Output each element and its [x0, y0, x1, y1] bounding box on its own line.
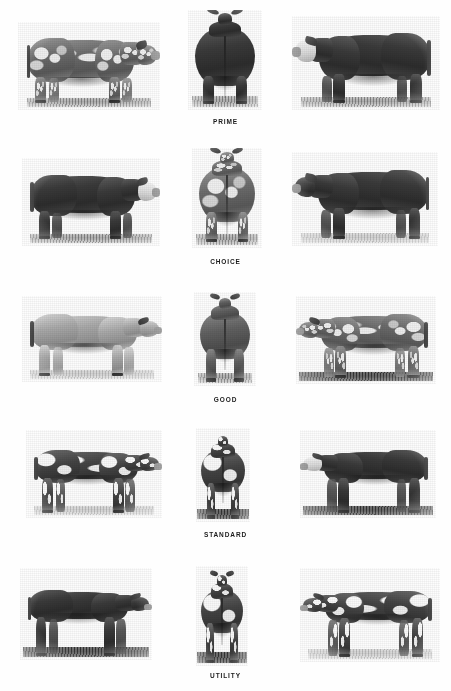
cattle-tail — [28, 597, 31, 620]
cattle-twist-shadow — [213, 212, 241, 226]
cattle-side-view — [22, 158, 160, 246]
cattle-side-view — [300, 568, 440, 662]
cattle-tail — [34, 457, 37, 480]
cattle-belly-shadow — [336, 74, 410, 85]
cattle-muzzle — [151, 51, 160, 60]
cattle-belly-shadow — [50, 210, 119, 221]
cattle-muzzle — [292, 184, 301, 193]
cattle-horn-left — [207, 10, 220, 16]
cattle-photo — [22, 158, 160, 246]
photo-frame — [20, 568, 152, 660]
cattle-front-leg — [322, 76, 332, 101]
grade-label: STANDARD — [0, 531, 451, 538]
cattle-horns — [210, 293, 240, 301]
cattle-hoof — [408, 375, 419, 378]
cattle-hoof — [203, 101, 214, 104]
cattle-side-view — [300, 430, 436, 518]
cattle-front-leg — [123, 213, 133, 239]
cattle-front-leg — [122, 78, 132, 102]
cattle-hoof — [333, 236, 345, 239]
cattle-side-view — [296, 296, 436, 384]
cattle-front-leg — [124, 347, 134, 375]
cattle-hind-leg — [39, 211, 50, 239]
cattle-hind-leg — [412, 618, 423, 657]
cattle-hoof — [339, 654, 350, 657]
cattle-belly-shadow — [338, 344, 408, 355]
photo-frame — [188, 10, 262, 110]
cattle-hoof — [206, 660, 214, 663]
cattle-hoof — [109, 100, 120, 103]
cattle-tail — [221, 598, 222, 645]
cattle-horn-right — [229, 292, 240, 300]
cattle-belly-shadow — [46, 613, 112, 624]
cattle-horn-right — [225, 570, 235, 577]
cattle-hoof — [238, 239, 249, 242]
grade-label: PRIME — [0, 118, 451, 125]
cattle-hoof — [231, 515, 239, 518]
cattle-photo — [296, 296, 436, 384]
cattle-horn-left — [209, 570, 219, 577]
cattle-twist-shadow — [213, 349, 238, 362]
cattle-horn-right — [230, 10, 243, 16]
photo-frame — [194, 292, 256, 386]
cattle-front-leg — [125, 479, 135, 512]
cattle-twist-shadow — [212, 623, 233, 637]
cattle-head — [218, 436, 229, 447]
cattle-rear-view — [196, 566, 248, 666]
cattle-front-leg — [321, 210, 331, 237]
cattle-hind-leg — [410, 74, 422, 102]
cattle-hoof — [112, 373, 123, 376]
cattle-hoof — [410, 100, 422, 103]
cattle-photo — [188, 10, 262, 110]
photo-frame — [300, 430, 436, 518]
grade-label: UTILITY — [0, 672, 451, 679]
photo-frame — [296, 296, 436, 384]
cattle-hind-leg — [35, 77, 46, 103]
cattle-belly-shadow — [50, 343, 120, 353]
cattle-side-view — [292, 16, 440, 110]
cattle-side-view — [18, 22, 160, 110]
cattle-photo — [300, 430, 436, 518]
grade-label: CHOICE — [0, 258, 451, 265]
cattle-horn-right — [232, 148, 244, 154]
cattle-rear-view — [196, 428, 250, 522]
cattle-photo — [194, 292, 256, 386]
photo-frame — [192, 148, 262, 248]
cattle-front-leg — [328, 620, 338, 657]
cattle-twist-shadow — [210, 76, 240, 90]
cattle-photo — [20, 568, 152, 660]
cattle-hoof — [335, 375, 346, 378]
grade-label: GOOD — [0, 396, 451, 403]
cattle-horns — [207, 10, 243, 17]
cattle-hind-leg — [409, 478, 420, 513]
cattle-muzzle — [300, 463, 308, 470]
cattle-hoof — [113, 510, 124, 513]
cattle-hoof — [338, 510, 349, 513]
photo-frame — [22, 158, 160, 246]
cattle-photo — [22, 296, 162, 382]
photo-frame — [300, 568, 440, 662]
cattle-belly-shadow — [342, 614, 412, 625]
cattle-tail — [30, 321, 34, 347]
cattle-belly-shadow — [53, 475, 121, 486]
cattle-hoof — [104, 653, 115, 656]
cattle-hind-leg — [39, 345, 50, 376]
cattle-side-view — [20, 568, 152, 660]
cattle-rear-view — [188, 10, 262, 110]
cattle-belly-shadow — [336, 207, 409, 218]
cattle-horns — [210, 570, 235, 579]
cattle-hoof — [207, 515, 215, 518]
cattle-front-leg — [327, 479, 337, 512]
cattle-rear-view — [192, 148, 262, 248]
cattle-hoof — [412, 654, 423, 657]
photo-frame — [292, 152, 438, 246]
cattle-muzzle — [154, 463, 162, 470]
cattle-photo — [192, 148, 262, 248]
photo-frame — [26, 430, 162, 518]
cattle-hoof — [206, 378, 215, 381]
cattle-rear-view — [194, 292, 256, 386]
cattle-photo — [196, 428, 250, 522]
cattle-photo — [18, 22, 160, 110]
cattle-hoof — [409, 510, 420, 513]
cattle-muzzle — [152, 188, 160, 197]
